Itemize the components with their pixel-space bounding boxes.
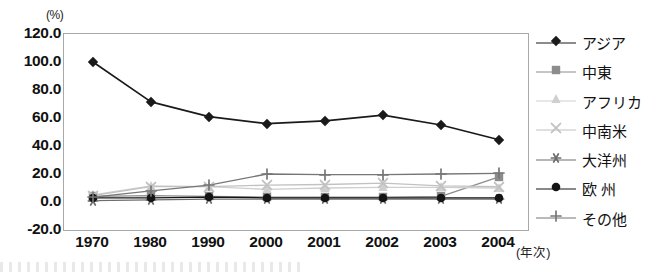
series-lines xyxy=(64,34,528,230)
legend-item-7[interactable]: その他 xyxy=(536,206,627,231)
data-point-marker xyxy=(318,191,332,205)
data-point-marker xyxy=(434,167,448,181)
y-tick-label: 80.0 xyxy=(3,80,61,98)
legend-item-1[interactable]: アジア xyxy=(536,30,626,55)
data-point-marker xyxy=(318,168,332,182)
y-tick-label: 100.0 xyxy=(3,52,61,70)
legend-marker-icon xyxy=(536,210,576,226)
x-tick-label: 2002 xyxy=(365,233,398,251)
legend-item-5[interactable]: 大洋州 xyxy=(536,147,627,172)
plot-inner xyxy=(64,34,528,230)
data-point-marker xyxy=(260,191,274,205)
legend-item-6[interactable]: 欧 州 xyxy=(536,176,616,201)
data-point-marker xyxy=(260,167,274,181)
legend-marker-icon xyxy=(536,122,576,138)
y-axis-unit-label: (%) xyxy=(46,8,63,22)
chart-legend: アジア中東アフリカ中南米大洋州欧 州その他 xyxy=(536,30,662,235)
data-point-marker xyxy=(376,168,390,182)
x-tick-label: 1970 xyxy=(75,233,108,251)
legend-label: アフリカ xyxy=(582,91,642,112)
data-point-marker xyxy=(86,190,100,204)
legend-marker-icon xyxy=(536,181,576,197)
page-edge-artifact xyxy=(0,262,300,272)
x-tick-label: 2000 xyxy=(249,233,282,251)
legend-label: 欧 州 xyxy=(582,178,616,199)
legend-label: 中東 xyxy=(582,61,612,82)
line-chart: (%) 120.0100.080.060.040.020.00.0-20.0 1… xyxy=(0,0,662,272)
legend-label: その他 xyxy=(582,208,627,229)
legend-item-2[interactable]: 中東 xyxy=(536,59,612,84)
data-point-marker xyxy=(434,191,448,205)
data-point-marker xyxy=(492,166,506,180)
data-point-marker xyxy=(492,133,506,147)
legend-label: 中南米 xyxy=(582,120,627,141)
y-axis-tick-labels: 120.0100.080.060.040.020.00.0-20.0 xyxy=(0,33,61,231)
x-tick-label: 1980 xyxy=(133,233,166,251)
plot-area xyxy=(63,33,529,231)
x-tick-label: 2001 xyxy=(307,233,340,251)
legend-marker-icon xyxy=(536,93,576,109)
legend-marker-icon xyxy=(536,64,576,80)
legend-label: 大洋州 xyxy=(582,149,627,170)
x-axis-tick-labels: 19701980199020002001200220032004 xyxy=(63,233,529,257)
y-tick-label: 0.0 xyxy=(3,192,61,210)
legend-item-3[interactable]: アフリカ xyxy=(536,89,642,114)
x-axis-title: (年次) xyxy=(516,242,550,261)
y-tick-label: 120.0 xyxy=(3,24,61,42)
data-point-marker xyxy=(434,118,448,132)
data-point-marker xyxy=(86,55,100,69)
x-tick-label: 1990 xyxy=(191,233,224,251)
data-point-marker xyxy=(260,117,274,131)
data-point-marker xyxy=(318,114,332,128)
data-point-marker xyxy=(144,95,158,109)
data-point-marker xyxy=(202,190,216,204)
y-tick-label: 20.0 xyxy=(3,164,61,182)
data-point-marker xyxy=(202,178,216,192)
data-point-marker xyxy=(144,184,158,198)
data-point-marker xyxy=(202,110,216,124)
x-tick-label: 2004 xyxy=(481,233,514,251)
y-tick-label: -20.0 xyxy=(3,220,61,238)
data-point-marker xyxy=(492,191,506,205)
legend-item-4[interactable]: 中南米 xyxy=(536,118,627,143)
data-point-marker xyxy=(376,108,390,122)
data-point-marker xyxy=(376,191,390,205)
legend-label: アジア xyxy=(582,32,626,53)
y-tick-label: 40.0 xyxy=(3,136,61,154)
legend-marker-icon xyxy=(536,35,576,51)
y-tick-label: 60.0 xyxy=(3,108,61,126)
legend-marker-icon xyxy=(536,152,576,168)
x-tick-label: 2003 xyxy=(423,233,456,251)
